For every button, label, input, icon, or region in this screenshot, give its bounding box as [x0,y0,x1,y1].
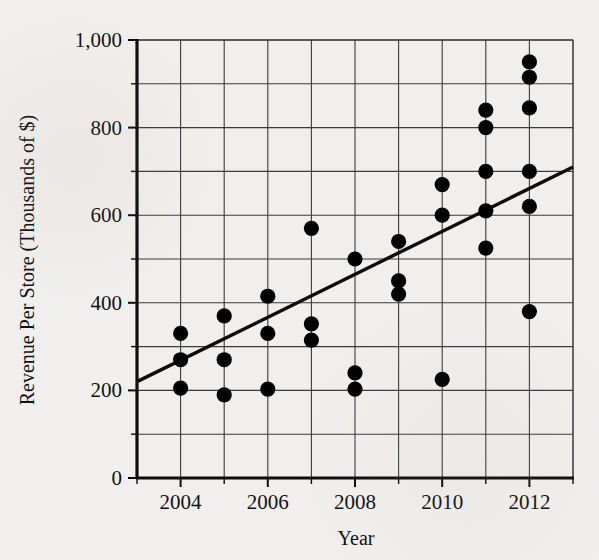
y-axis-tick-label: 1,000 [75,28,122,52]
scatter-plot-figure: 02004006008001,000 20042006200820102012 … [0,0,599,560]
data-point [304,332,319,347]
data-point [260,289,275,304]
data-point [522,199,537,214]
x-axis-tick-label: 2012 [508,490,550,514]
data-point [391,273,406,288]
data-point [217,352,232,367]
y-axis-title: Revenue Per Store (Thousands of $) [16,115,39,406]
data-point [522,100,537,115]
data-point [435,372,450,387]
x-axis-tick-label: 2010 [421,490,463,514]
data-point [173,326,188,341]
y-axis-tick-label: 600 [91,203,123,227]
data-point [478,164,493,179]
data-point [304,316,319,331]
data-point [347,381,362,396]
data-point [522,164,537,179]
x-axis-tick-label: 2008 [334,490,376,514]
data-point [522,54,537,69]
data-point [347,365,362,380]
y-axis-tick-label: 800 [91,116,123,140]
x-axis-tick-label: 2004 [160,490,203,514]
y-axis-tick-label: 0 [112,466,123,490]
x-axis-tick-label: 2006 [247,490,289,514]
data-point [217,308,232,323]
data-point [217,387,232,402]
data-point [478,203,493,218]
data-point [478,240,493,255]
data-point [391,234,406,249]
data-point [478,102,493,117]
chart-canvas: 02004006008001,000 20042006200820102012 … [0,0,599,560]
data-point [304,221,319,236]
data-point [391,286,406,301]
data-point [522,70,537,85]
data-point [347,251,362,266]
data-point [522,304,537,319]
y-axis-tick-label: 400 [91,291,123,315]
data-point [260,381,275,396]
data-point [173,352,188,367]
data-point [260,326,275,341]
data-point [173,381,188,396]
x-axis-title: Year [338,527,375,549]
data-point [478,120,493,135]
data-point [435,208,450,223]
data-point [435,177,450,192]
y-axis-tick-label: 200 [91,378,123,402]
